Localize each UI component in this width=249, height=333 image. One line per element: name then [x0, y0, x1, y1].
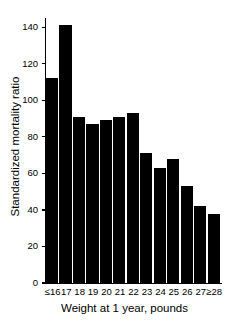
bar: [181, 186, 193, 283]
y-tick-mark: [42, 209, 46, 210]
x-axis-title: Weight at 1 year, pounds: [0, 302, 249, 314]
bar: [113, 117, 125, 283]
y-tick-mark: [42, 100, 46, 101]
x-axis-spine: [45, 283, 222, 284]
bars-container: [46, 18, 221, 283]
y-tick-mark: [42, 27, 46, 28]
y-tick-label: 100: [0, 95, 38, 104]
bar: [167, 159, 179, 283]
bar: [140, 153, 152, 283]
bar: [154, 168, 166, 283]
bar: [100, 120, 112, 283]
y-tick-mark: [42, 282, 46, 283]
x-tick-label: ≥28: [204, 286, 225, 297]
y-tick-mark: [42, 136, 46, 137]
y-tick-mark: [42, 246, 46, 247]
y-tick-label: 0: [0, 278, 38, 287]
bar: [208, 214, 220, 283]
y-tick-label: 80: [0, 132, 38, 141]
y-tick-label: 140: [0, 22, 38, 31]
x-axis-tick-labels: ≤161718192021222324252627≥28: [46, 286, 221, 300]
bar: [73, 117, 85, 283]
bar: [86, 124, 98, 283]
y-tick-label: 40: [0, 205, 38, 214]
y-tick-mark: [42, 173, 46, 174]
bar-chart-figure: Standardized mortality ratio 02040608010…: [0, 0, 249, 333]
bar: [194, 206, 206, 283]
y-tick-label: 60: [0, 168, 38, 177]
bar: [46, 78, 58, 283]
bar: [59, 25, 71, 283]
bar: [127, 113, 139, 283]
y-tick-label: 20: [0, 241, 38, 250]
y-tick-mark: [42, 63, 46, 64]
y-tick-label: 120: [0, 59, 38, 68]
